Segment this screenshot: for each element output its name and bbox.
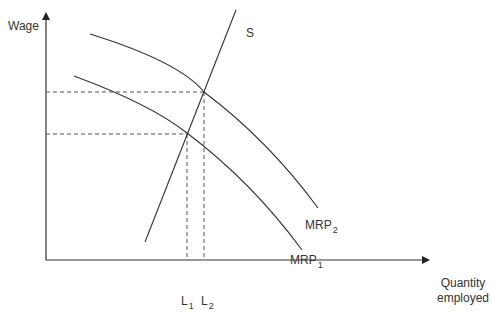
- l1-label-sub: 1: [189, 301, 194, 311]
- diagram-canvas: [0, 0, 493, 318]
- x-axis-label: Quantity employed: [437, 276, 489, 306]
- supply-curve-label: S: [246, 27, 254, 39]
- mrp1-label-sub: 1: [318, 260, 323, 270]
- supply-curve: [145, 10, 236, 242]
- mrp1-curve: [74, 76, 302, 250]
- x-axis-label-line1: Quantity: [437, 276, 489, 291]
- mrp2-label-sub: 2: [333, 225, 338, 235]
- x-axis-label-line2: employed: [437, 291, 489, 306]
- l2-label: L2: [201, 295, 214, 307]
- l2-label-main: L: [201, 294, 208, 308]
- l1-label-main: L: [181, 294, 188, 308]
- l2-label-sub: 2: [209, 301, 214, 311]
- y-axis-label: Wage: [8, 20, 39, 32]
- l1-label: L1: [181, 295, 194, 307]
- mrp1-label: MRP1: [290, 254, 323, 266]
- mrp1-label-main: MRP: [290, 253, 317, 267]
- mrp2-label: MRP2: [305, 219, 338, 231]
- mrp2-label-main: MRP: [305, 218, 332, 232]
